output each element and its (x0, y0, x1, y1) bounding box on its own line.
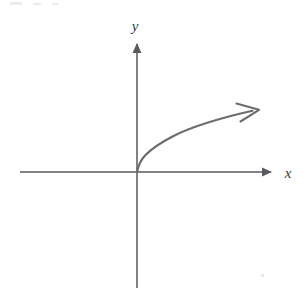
scan-speck-top-right (52, 3, 58, 5)
scan-speck-top-left (10, 2, 22, 5)
scan-speck-bottom-right (261, 274, 264, 277)
math-figure: y x (0, 0, 307, 294)
scan-speck-top-mid (33, 3, 41, 5)
coordinate-plot-svg: y x (0, 0, 307, 294)
x-axis-label: x (284, 165, 292, 181)
y-axis-label: y (130, 18, 139, 34)
sqrt-curve (137, 111, 253, 172)
